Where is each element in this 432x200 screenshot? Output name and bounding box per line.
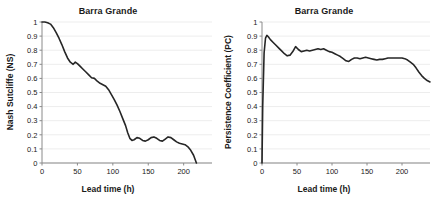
y-tick-label: 0.9 [27,32,37,41]
y-tick-label: 0.8 [27,46,37,55]
y-tick-label: 0.2 [247,131,257,140]
x-axis-label-left: Lead time (h) [0,184,216,194]
y-tick-label: 0.4 [27,102,37,111]
plot-area-right: 00.10.20.30.40.50.60.70.80.9105010015020… [216,0,432,200]
y-tick-label: 0.6 [27,74,37,83]
y-tick-label: 0.7 [247,60,257,69]
data-series-line [262,35,430,163]
x-tick-label: 200 [177,167,190,176]
plot-area-left: 00.10.20.30.40.50.60.70.80.9105010015020… [0,0,216,200]
chart-panel-nash-sutcliffe: Barra Grande Nash Sutcliffe (NS) 00.10.2… [0,0,216,200]
chart-panel-persistence-coefficient: Barra Grande Persistence Coefficient (PC… [216,0,432,200]
x-tick-label: 100 [107,167,120,176]
y-tick-label: 0.4 [247,102,257,111]
figure-two-panel-charts: Barra Grande Nash Sutcliffe (NS) 00.10.2… [0,0,432,200]
y-tick-label: 1 [253,18,257,27]
y-tick-label: 0.9 [247,32,257,41]
y-tick-label: 0 [33,159,37,168]
x-tick-label: 50 [73,167,81,176]
x-tick-label: 0 [260,167,264,176]
x-tick-label: 50 [293,167,301,176]
y-tick-label: 0.3 [27,116,37,125]
y-tick-label: 0.2 [27,131,37,140]
y-tick-label: 0.3 [247,116,257,125]
y-tick-label: 0.1 [27,145,37,154]
y-tick-label: 0.5 [247,88,257,97]
x-tick-label: 200 [396,167,409,176]
y-tick-label: 0.7 [27,60,37,69]
x-tick-label: 150 [142,167,155,176]
y-tick-label: 0.6 [247,74,257,83]
x-tick-label: 100 [326,167,339,176]
x-tick-label: 150 [361,167,374,176]
y-tick-label: 0.5 [27,88,37,97]
y-tick-label: 1 [33,18,37,27]
y-tick-label: 0.1 [247,145,257,154]
x-tick-label: 0 [40,167,44,176]
y-tick-label: 0.8 [247,46,257,55]
x-axis-label-right: Lead time (h) [216,184,432,194]
y-tick-label: 0 [253,159,257,168]
